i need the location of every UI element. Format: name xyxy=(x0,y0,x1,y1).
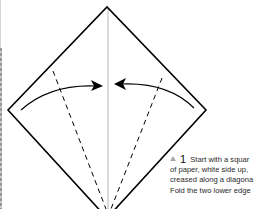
caption-text: Start with a squar xyxy=(190,155,249,164)
caption-line-3: creased along a diagona xyxy=(170,175,265,185)
step-caption: 1 Start with a squar of paper, white sid… xyxy=(170,154,265,196)
valley-fold-line-right xyxy=(111,78,162,209)
instruction-page: 1 Start with a squar of paper, white sid… xyxy=(0,0,265,209)
fold-arrow-right-icon xyxy=(114,78,194,108)
caption-line-4: Fold the two lower edge xyxy=(170,186,265,196)
step-number: 1 xyxy=(180,153,186,165)
caption-line-2: of paper, white side up, xyxy=(170,165,265,175)
caption-line-1: 1 Start with a squar xyxy=(170,154,265,165)
triangle-up-icon xyxy=(170,156,176,161)
